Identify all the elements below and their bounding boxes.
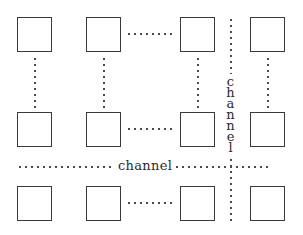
pe-box-r2c2 bbox=[86, 112, 121, 147]
pe-box-r2c4 bbox=[250, 112, 285, 147]
ellipsis-horizontal-row2 bbox=[126, 128, 176, 130]
channel-label-vertical-letter-6: l bbox=[224, 142, 237, 153]
pe-box-r3c3 bbox=[180, 186, 215, 221]
ellipsis-horizontal-row3 bbox=[126, 202, 176, 204]
pe-box-r1c1 bbox=[17, 17, 52, 52]
pe-box-r1c4 bbox=[250, 17, 285, 52]
ellipsis-horizontal-row1 bbox=[126, 33, 176, 35]
channel-grid-diagram: channel c h a n n e l bbox=[0, 0, 303, 235]
ellipsis-vertical-col4 bbox=[267, 56, 269, 108]
channel-line-vertical-bottom bbox=[230, 157, 232, 222]
pe-box-r1c2 bbox=[86, 17, 121, 52]
pe-box-r1c3 bbox=[180, 17, 215, 52]
pe-box-r2c1 bbox=[17, 112, 52, 147]
pe-box-r2c3 bbox=[180, 112, 215, 147]
ellipsis-vertical-col3 bbox=[197, 56, 199, 108]
pe-box-r3c2 bbox=[86, 186, 121, 221]
channel-line-vertical-top bbox=[230, 17, 232, 75]
channel-line-horizontal-left bbox=[17, 166, 116, 168]
channel-label-horizontal: channel bbox=[115, 159, 175, 172]
pe-box-r3c1 bbox=[17, 186, 52, 221]
ellipsis-vertical-col1 bbox=[34, 56, 36, 108]
channel-label-vertical: c h a n n e l bbox=[224, 74, 237, 155]
pe-box-r3c4 bbox=[250, 186, 285, 221]
channel-line-horizontal-right bbox=[162, 166, 272, 168]
ellipsis-vertical-col2 bbox=[103, 56, 105, 108]
